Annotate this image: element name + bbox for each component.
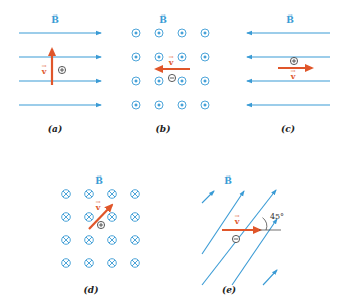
positive-charge-icon bbox=[58, 66, 65, 73]
cross-symbol-icon bbox=[85, 190, 94, 199]
dot-symbol-icon bbox=[155, 53, 163, 61]
dot-symbol-icon bbox=[132, 77, 140, 85]
cross-symbol-icon bbox=[108, 213, 117, 222]
vector-arrow-icon: → bbox=[290, 68, 295, 74]
dot-symbol-icon bbox=[201, 77, 209, 85]
vector-arrow-icon: → bbox=[168, 54, 173, 60]
vector-arrow-icon: → bbox=[95, 199, 100, 205]
dot-symbol-icon bbox=[178, 29, 186, 37]
field-label-e: →B bbox=[224, 177, 232, 186]
dot-symbol-icon bbox=[178, 101, 186, 109]
field-label-c: →B bbox=[286, 16, 294, 25]
caption-b: (b) bbox=[156, 125, 171, 134]
velocity-label-a: →v bbox=[42, 67, 47, 75]
field-label-d: →B bbox=[95, 177, 103, 186]
panel-c bbox=[247, 33, 330, 105]
dot-symbol-icon bbox=[178, 53, 186, 61]
angle-label: 45° bbox=[270, 213, 284, 221]
dot-symbol-icon bbox=[132, 101, 140, 109]
velocity-label-c: →v bbox=[291, 72, 296, 80]
dot-symbol-icon bbox=[155, 101, 163, 109]
positive-charge-icon bbox=[290, 57, 297, 64]
panel-e bbox=[202, 190, 281, 285]
vector-arrow-icon: → bbox=[234, 213, 239, 219]
negative-charge-icon bbox=[232, 235, 239, 242]
vector-arrow-icon: → bbox=[160, 12, 165, 18]
cross-symbol-icon bbox=[108, 236, 117, 245]
cross-symbol-icon bbox=[62, 259, 71, 268]
cross-symbol-icon bbox=[85, 259, 94, 268]
caption-c: (c) bbox=[281, 125, 295, 134]
cross-symbol-icon bbox=[131, 236, 140, 245]
vector-arrow-icon: → bbox=[225, 173, 230, 179]
dot-symbol-icon bbox=[132, 29, 140, 37]
caption-e: (e) bbox=[222, 286, 236, 295]
dot-symbol-icon bbox=[201, 101, 209, 109]
cross-symbol-icon bbox=[108, 190, 117, 199]
negative-charge-icon bbox=[168, 74, 175, 81]
cross-symbol-icon bbox=[85, 213, 94, 222]
caption-a: (a) bbox=[48, 125, 62, 134]
dot-symbol-icon bbox=[155, 29, 163, 37]
dot-symbol-icon bbox=[178, 77, 186, 85]
field-label-b: →B bbox=[159, 16, 167, 25]
vector-arrow-icon: → bbox=[52, 12, 57, 18]
vector-arrow-icon: → bbox=[287, 12, 292, 18]
dot-symbol-icon bbox=[155, 77, 163, 85]
cross-symbol-icon bbox=[108, 259, 117, 268]
velocity-label-e: →v bbox=[235, 217, 240, 225]
dot-symbol-icon bbox=[201, 53, 209, 61]
dot-symbol-icon bbox=[132, 53, 140, 61]
caption-d: (d) bbox=[84, 286, 99, 295]
cross-symbol-icon bbox=[62, 190, 71, 199]
panel-b bbox=[132, 29, 209, 109]
cross-symbol-icon bbox=[85, 236, 94, 245]
dot-symbol-icon bbox=[201, 29, 209, 37]
field-label-a: →B bbox=[51, 16, 59, 25]
cross-symbol-icon bbox=[62, 213, 71, 222]
positive-charge-icon bbox=[97, 221, 104, 228]
velocity-label-b: →v bbox=[169, 58, 174, 66]
cross-symbol-icon bbox=[131, 259, 140, 268]
velocity-label-d: →v bbox=[96, 203, 101, 211]
cross-symbol-icon bbox=[131, 213, 140, 222]
vector-arrow-icon: → bbox=[41, 63, 46, 69]
magnetic-force-diagram bbox=[0, 0, 339, 296]
cross-symbol-icon bbox=[131, 190, 140, 199]
vector-arrow-icon: → bbox=[96, 173, 101, 179]
cross-symbol-icon bbox=[62, 236, 71, 245]
panel-a bbox=[19, 33, 101, 105]
